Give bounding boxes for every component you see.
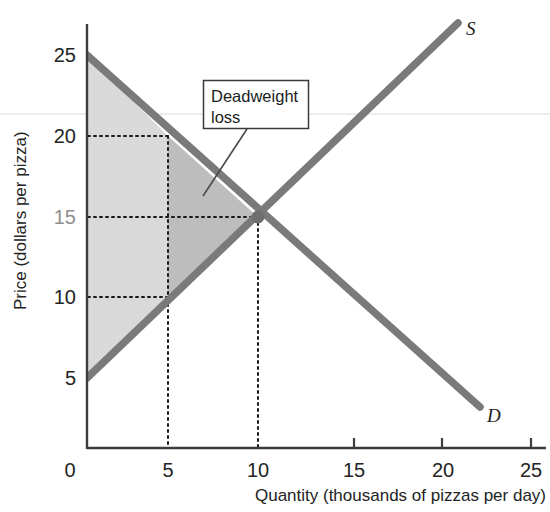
- x-tick-label-5: 5: [162, 459, 173, 481]
- y-tick-label-10: 10: [54, 286, 76, 308]
- y-tick-label-20: 20: [54, 125, 76, 147]
- supply-curve-label: S: [466, 18, 476, 39]
- x-axis-ticks: [354, 438, 531, 448]
- x-tick-label-25: 25: [520, 459, 542, 481]
- demand-curve-label: D: [486, 405, 501, 426]
- equilibrium-point: [252, 211, 265, 224]
- y-tick-label-5: 5: [65, 367, 76, 389]
- x-tick-label-0: 0: [64, 459, 75, 481]
- chart-container: 0 5 10 15 20 25 5 10 15 20 25 Price (dol…: [0, 0, 550, 512]
- y-tick-label-25: 25: [54, 44, 76, 66]
- y-axis-title: Price (dollars per pizza): [11, 131, 30, 310]
- callout-line-1: Deadweight: [211, 87, 299, 105]
- x-axis-title: Quantity (thousands of pizzas per day): [255, 486, 546, 505]
- callout-line-2: loss: [211, 108, 240, 126]
- y-tick-label-15: 15: [54, 206, 76, 228]
- supply-demand-figure: 0 5 10 15 20 25 5 10 15 20 25 Price (dol…: [0, 0, 550, 512]
- x-tick-label-10: 10: [247, 459, 269, 481]
- x-tick-label-15: 15: [343, 459, 365, 481]
- x-tick-label-20: 20: [432, 459, 454, 481]
